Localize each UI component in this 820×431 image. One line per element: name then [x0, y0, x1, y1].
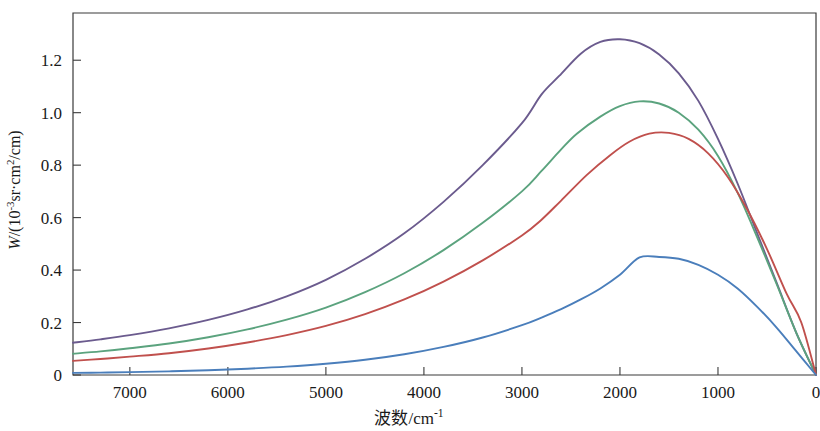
axis-frame [73, 13, 816, 375]
x-axis-label-unit: /cm [408, 409, 434, 428]
x-tick-label-3: 4000 [407, 384, 441, 401]
x-tick-label-6: 1000 [701, 384, 735, 401]
y-tick-label-6: 1.2 [0, 52, 62, 69]
curve-green [73, 101, 816, 375]
y-tick-label-0: 0 [0, 367, 62, 384]
y-axis-label: W/(10-3sr·cm2/cm) [6, 130, 24, 249]
x-tick-label-0: 7000 [113, 384, 147, 401]
series-group [73, 39, 816, 375]
y-axis-label-sq: 2 [4, 160, 16, 165]
x-axis-label: 波数/cm-1 [0, 404, 818, 429]
curve-blue [73, 256, 816, 375]
x-tick-label-4: 3000 [505, 384, 539, 401]
curve-purple [73, 39, 816, 375]
y-axis-label-mid: sr·cm [6, 165, 23, 201]
x-tick-label-1: 6000 [211, 384, 245, 401]
x-tick-label-7: 0 [812, 384, 820, 401]
y-axis-label-symbol: W [6, 236, 23, 249]
x-tick-label-2: 5000 [309, 384, 343, 401]
x-axis-label-unit-exp: -1 [434, 407, 444, 420]
y-axis-label-exp: -3 [4, 202, 16, 211]
x-axis-label-cjk: 波数 [374, 408, 408, 428]
y-axis-label-open: /(10 [6, 211, 23, 237]
y-axis-label-close: /cm) [6, 130, 23, 159]
y-tick-label-1: 0.2 [0, 314, 62, 331]
y-tick-label-2: 0.4 [0, 262, 62, 279]
y-tick-label-5: 1.0 [0, 104, 62, 121]
curve-red [73, 132, 816, 375]
ticks-group [73, 60, 816, 375]
axes-group [73, 13, 816, 375]
x-tick-label-5: 2000 [603, 384, 637, 401]
